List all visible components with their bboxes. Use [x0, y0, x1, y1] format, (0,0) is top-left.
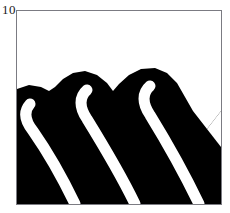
figure-panel: 10	[0, 0, 230, 213]
silhouette-figure	[17, 11, 221, 204]
image-frame	[16, 10, 222, 205]
panel-index-label: 10	[2, 3, 16, 17]
